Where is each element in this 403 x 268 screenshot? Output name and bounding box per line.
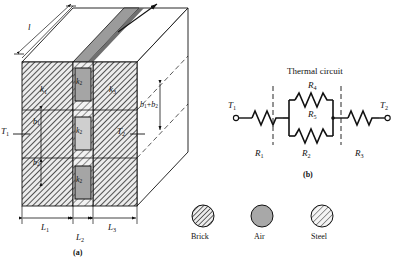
label-L3: L3 bbox=[108, 222, 116, 233]
circuit-title: Thermal circuit bbox=[287, 66, 343, 76]
caption-panel-b: (b) bbox=[303, 170, 313, 179]
label-t2-panel-b: T2 bbox=[380, 100, 388, 111]
caption-panel-a: (a) bbox=[73, 248, 82, 257]
legend-swatch-brick bbox=[192, 205, 214, 227]
label-L1: L1 bbox=[41, 222, 49, 233]
legend-swatch-air bbox=[251, 205, 273, 227]
panel-a-isometric-block bbox=[13, 4, 188, 224]
terminal-node-t2 bbox=[385, 115, 390, 120]
legend-label-brick: Brick bbox=[191, 232, 209, 241]
label-r4: R4 bbox=[308, 80, 317, 91]
label-k2-middle: k2 bbox=[76, 126, 82, 135]
legend bbox=[192, 205, 333, 227]
legend-label-steel: Steel bbox=[311, 232, 327, 241]
legend-label-air: Air bbox=[254, 232, 265, 241]
legend-swatch-steel bbox=[311, 205, 333, 227]
label-r3: R3 bbox=[355, 148, 364, 159]
label-r5: R5 bbox=[308, 109, 317, 120]
label-b1: b1 bbox=[33, 117, 40, 126]
terminal-node-t1 bbox=[233, 115, 238, 120]
resistor-r1-symbol bbox=[252, 111, 283, 125]
label-b1-plus-b2: b1+b2 bbox=[140, 100, 158, 109]
figure-heat-transfer-composite-wall bbox=[0, 0, 403, 268]
label-r2: R2 bbox=[302, 148, 311, 159]
resistor-r3-symbol bbox=[348, 111, 379, 125]
label-k1: k1 bbox=[40, 84, 47, 95]
label-t2-panel-a: T2 bbox=[117, 126, 125, 137]
resistor-r5-symbol bbox=[295, 129, 333, 143]
label-k2-bottom: k2 bbox=[76, 175, 82, 184]
label-k2-top: k2 bbox=[76, 77, 82, 86]
label-t1-panel-a: T1 bbox=[1, 126, 9, 137]
label-t1-panel-b: T1 bbox=[228, 100, 236, 111]
label-L2: L2 bbox=[76, 232, 84, 243]
label-r1: R1 bbox=[255, 148, 264, 159]
label-k3: k3 bbox=[109, 84, 116, 95]
resistor-r4-symbol bbox=[295, 93, 333, 107]
label-b2: b2 bbox=[33, 158, 40, 167]
dim-label-l: l bbox=[28, 22, 31, 32]
